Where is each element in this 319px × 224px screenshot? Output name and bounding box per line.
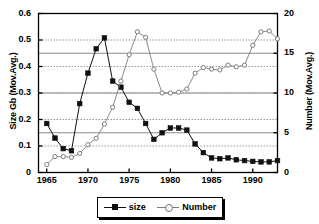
x-axis-tick: 1965 <box>30 175 64 185</box>
y-axis-right-tick: 15 <box>284 47 310 57</box>
series-size <box>44 36 279 165</box>
chart-figure: Size Gb (Mov.Avg.) Number (Mov.Avg.) 00.… <box>0 0 319 224</box>
y-axis-left-tick: 0.1 <box>5 140 31 150</box>
y-axis-right-tick: 5 <box>284 127 310 137</box>
chart-legend: size Number <box>97 197 223 218</box>
y-axis-left-tick: 0.6 <box>5 8 31 18</box>
x-axis-tick: 1990 <box>236 175 270 185</box>
x-axis-tick: 1975 <box>112 175 146 185</box>
x-axis-tick: 1970 <box>71 175 105 185</box>
legend-label-size: size <box>129 203 146 212</box>
y-axis-left-tick: 0.3 <box>5 87 31 97</box>
y-axis-left-tick: 0.4 <box>5 61 31 71</box>
y-axis-right-tick: 0 <box>284 167 310 177</box>
x-axis-tick: 1980 <box>153 175 187 185</box>
y-axis-right-tick: 20 <box>284 8 310 18</box>
x-axis-tick: 1985 <box>195 175 229 185</box>
legend-item-size: size <box>104 203 146 212</box>
y-axis-left-tick: 0 <box>5 167 31 177</box>
legend-marker-number-icon <box>157 203 179 212</box>
legend-label-number: Number <box>182 203 216 212</box>
legend-marker-size-icon <box>104 203 126 212</box>
y-axis-left-tick: 0.2 <box>5 114 31 124</box>
legend-item-number: Number <box>157 203 216 212</box>
chart-plot-area <box>0 0 319 224</box>
y-axis-right-tick: 10 <box>284 87 310 97</box>
y-axis-left-tick: 0.5 <box>5 34 31 44</box>
